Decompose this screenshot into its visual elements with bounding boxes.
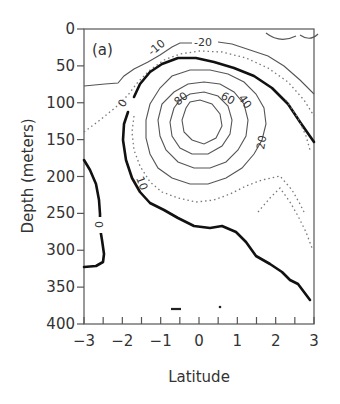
x-axis-label: Latitude <box>168 368 230 386</box>
contour-figure: 050100150200250300350400 −3−2−10123 <box>0 0 340 404</box>
contour-zero-left <box>84 160 104 267</box>
plot-frame <box>84 29 314 324</box>
y-axis-ticks: 050100150200250300350400 <box>46 20 84 333</box>
contour-label: 20 <box>254 134 269 150</box>
x-tick-label: −2 <box>111 332 133 350</box>
contour-label: 40 <box>236 92 255 111</box>
contour-80 <box>182 100 222 144</box>
y-tick-label: 300 <box>46 241 75 259</box>
y-tick-label: 200 <box>46 168 75 186</box>
contour-labels: -20 -10 0 10 80 60 40 20 0 <box>92 34 269 233</box>
contour-lines <box>84 33 318 309</box>
x-tick-label: −1 <box>150 332 172 350</box>
surface-wave-2 <box>300 34 318 38</box>
x-tick-label: 2 <box>271 332 281 350</box>
surface-wave-1 <box>266 33 296 39</box>
y-tick-label: 400 <box>46 315 75 333</box>
y-axis-label: Depth (meters) <box>19 118 37 233</box>
contour-label: -20 <box>194 36 212 49</box>
y-tick-label: 350 <box>46 278 75 296</box>
contour-zero-lower <box>123 112 310 300</box>
small-dot-mark <box>219 306 222 309</box>
contour-label: 10 <box>133 175 150 193</box>
y-tick-label: 250 <box>46 204 75 222</box>
x-axis-ticks: −3−2−10123 <box>73 317 319 350</box>
x-tick-label: 1 <box>233 332 243 350</box>
contour-label: -10 <box>146 37 168 59</box>
contour-plot: 050100150200250300350400 −3−2−10123 <box>0 0 340 404</box>
contour-20 <box>146 70 266 184</box>
plot-border <box>84 29 314 324</box>
contour-dotted-lower-right <box>258 188 312 248</box>
contour-neg20 <box>84 42 314 94</box>
contour-label: 0 <box>115 97 130 110</box>
y-tick-label: 50 <box>56 57 75 75</box>
x-tick-label: 0 <box>194 332 204 350</box>
x-tick-label: 3 <box>309 332 319 350</box>
y-tick-label: 0 <box>65 20 75 38</box>
y-tick-label: 100 <box>46 94 75 112</box>
y-tick-label: 150 <box>46 131 75 149</box>
panel-label: (a) <box>92 41 113 59</box>
x-tick-label: −3 <box>73 332 95 350</box>
contour-label: 0 <box>92 221 105 228</box>
